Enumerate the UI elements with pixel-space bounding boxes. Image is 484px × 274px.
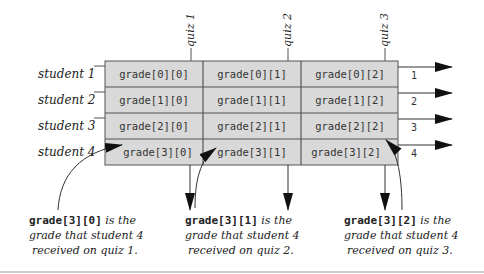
annotation-code: grade[3][0] <box>29 214 102 227</box>
row-index-label: 4 <box>411 148 417 159</box>
grid-cell: grade[0][2] <box>315 68 385 80</box>
annotation-code: grade[3][1] <box>185 214 258 227</box>
grid-cell: grade[3][0] <box>123 146 193 158</box>
annotation-text: is the <box>417 214 452 227</box>
annotation-text: is the <box>102 214 137 227</box>
grid-cell: grade[2][1] <box>217 120 287 132</box>
annotation-text: grade that student 4 <box>344 229 459 242</box>
annotation-code: grade[3][2] <box>344 214 417 227</box>
column-label: quiz 3 <box>378 13 391 47</box>
two-d-array-diagram: quiz 1 quiz 2 quiz 3 student 1 student 2… <box>0 0 484 274</box>
row-label: student 1 <box>38 67 96 81</box>
grid-cell: grade[3][2] <box>311 146 381 158</box>
row-label: student 3 <box>38 119 96 133</box>
annotation-quiz-3: grade[3][2] is the grade that student 4 … <box>344 214 459 257</box>
svg-text:grade[3][2] is the: grade[3][2] is the <box>344 214 452 227</box>
annotation-text: grade that student 4 <box>29 229 144 242</box>
annotation-text: is the <box>258 214 293 227</box>
annotation-text: grade that student 4 <box>185 229 300 242</box>
row-label: student 2 <box>38 93 96 107</box>
row-index-label: 2 <box>411 96 417 107</box>
grid-cell: grade[2][2] <box>315 120 385 132</box>
svg-text:grade[3][1] is the: grade[3][1] is the <box>185 214 293 227</box>
row-index-label: 3 <box>411 122 417 133</box>
column-label: quiz 2 <box>281 13 294 47</box>
annotation-quiz-1: grade[3][0] is the grade that student 4 … <box>29 214 144 257</box>
grid-cell: grade[0][1] <box>217 68 287 80</box>
annotation-quiz-2: grade[3][1] is the grade that student 4 … <box>185 214 300 257</box>
grid-cell: grade[1][0] <box>119 94 189 106</box>
row-index-label: 1 <box>411 70 417 81</box>
grid-cell: grade[2][0] <box>119 120 189 132</box>
annotation-text: received on quiz 1. <box>32 244 138 257</box>
grid-cell: grade[1][1] <box>217 94 287 106</box>
annotation-text: received on quiz 2. <box>188 244 294 257</box>
grid-cell: grade[3][1] <box>217 146 287 158</box>
grid-cell: grade[1][2] <box>315 94 385 106</box>
column-label: quiz 1 <box>184 13 197 47</box>
svg-text:grade[3][0] is the: grade[3][0] is the <box>29 214 137 227</box>
grid-cell: grade[0][0] <box>119 68 189 80</box>
annotation-text: received on quiz 3. <box>347 244 453 257</box>
